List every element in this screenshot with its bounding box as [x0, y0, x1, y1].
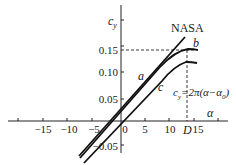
formula-label: cy=2π(α−α0) — [173, 86, 230, 101]
curve-label-b: b — [193, 36, 199, 50]
x-tick-label: 0 — [122, 123, 128, 135]
nasa-label: NASA — [171, 21, 204, 35]
y-tick-label: 0.15 — [99, 44, 119, 56]
lift-coefficient-chart: −15 −10 −5 0 5 10 15 0.15 0.10 0.05 −0.0… — [0, 0, 236, 165]
x-axis-label: α — [207, 106, 214, 120]
x-tick-label: 15 — [193, 123, 205, 135]
x-tick-label: 10 — [165, 123, 177, 135]
curve-label-a: a — [138, 69, 144, 83]
x-tick-label: −10 — [60, 123, 78, 135]
x-tick-label: −15 — [34, 123, 52, 135]
x-tick-label: 5 — [142, 123, 148, 135]
d-label: D — [182, 123, 192, 137]
curve-nasa-a — [79, 37, 185, 156]
curve-label-c: c — [158, 80, 164, 94]
chart-canvas: −15 −10 −5 0 5 10 15 0.15 0.10 0.05 −0.0… — [0, 0, 236, 165]
y-tick-label: 0.05 — [99, 93, 119, 105]
y-axis-label: cy — [108, 14, 117, 30]
y-tick-label: 0.10 — [99, 66, 119, 78]
